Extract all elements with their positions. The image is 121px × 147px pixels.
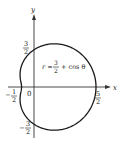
y-axis-label: y bbox=[30, 6, 36, 14]
svg-text:1: 1 bbox=[12, 88, 16, 96]
svg-text:5: 5 bbox=[96, 90, 100, 98]
tick-y-bottom: − 3 2 bbox=[19, 120, 31, 136]
svg-text:r =: r = bbox=[42, 63, 53, 71]
svg-text:2: 2 bbox=[54, 67, 58, 74]
svg-text:2: 2 bbox=[12, 96, 16, 104]
svg-text:2: 2 bbox=[96, 98, 100, 106]
tick-y-top: 3 2 bbox=[23, 40, 29, 56]
tick-x-right: 5 2 bbox=[95, 90, 101, 106]
svg-text:2: 2 bbox=[26, 128, 30, 136]
origin-label: 0 bbox=[27, 90, 31, 98]
x-axis-arrow-icon bbox=[105, 85, 111, 89]
equation-label: r = 3 2 + cos θ bbox=[42, 59, 85, 74]
svg-text:3: 3 bbox=[24, 40, 28, 48]
polar-graph: x y 0 3 2 − 3 2 − 1 2 5 2 r = 3 2 + cos … bbox=[0, 0, 121, 147]
tick-x-left: − 1 2 bbox=[5, 88, 17, 104]
svg-text:3: 3 bbox=[54, 59, 58, 66]
svg-text:+ cos θ: + cos θ bbox=[61, 63, 85, 71]
svg-text:−: − bbox=[5, 91, 10, 99]
y-axis-arrow-icon bbox=[32, 14, 36, 20]
x-axis-label: x bbox=[113, 84, 117, 92]
svg-text:3: 3 bbox=[26, 120, 30, 128]
svg-text:−: − bbox=[19, 124, 24, 132]
svg-text:2: 2 bbox=[24, 48, 28, 56]
